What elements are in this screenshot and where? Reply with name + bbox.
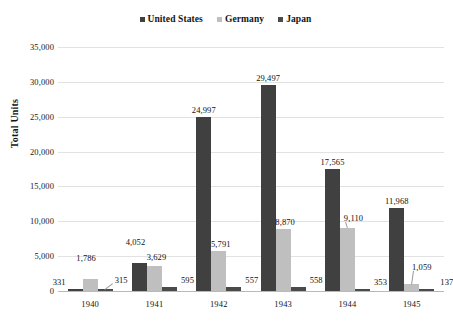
legend-label: Japan — [286, 14, 311, 24]
y-tick-label: 10,000 — [6, 216, 54, 226]
bar-germany-1944[interactable] — [340, 228, 355, 292]
legend-swatch-icon — [278, 17, 283, 22]
bar-germany-1943[interactable] — [276, 229, 291, 291]
legend-swatch-icon — [217, 17, 222, 22]
data-label-germany-1943: 8,870 — [275, 217, 295, 227]
plot-area: 3311,7863154,0523,62959524,9975,79155729… — [58, 47, 444, 291]
x-tick-label-1940: 1940 — [58, 299, 122, 309]
data-label-united-states-1940: 331 — [53, 277, 66, 287]
y-axis-ticks: 35,00030,00025,00020,00015,00010,0005,00… — [0, 47, 54, 291]
legend-item-japan[interactable]: Japan — [278, 14, 311, 24]
y-tick-label: 20,000 — [6, 147, 54, 157]
x-tick-label-1944: 1944 — [315, 299, 379, 309]
x-tick-label-1942: 1942 — [187, 299, 251, 309]
y-tick-label: 25,000 — [6, 112, 54, 122]
bar-united-states-1940[interactable] — [68, 289, 83, 291]
x-tick-label-1943: 1943 — [251, 299, 315, 309]
bar-group-bars — [187, 47, 251, 291]
bar-united-states-1943[interactable] — [261, 85, 276, 291]
data-label-germany-1941: 3,629 — [147, 252, 167, 262]
data-label-united-states-1944: 17,565 — [321, 157, 345, 167]
bar-japan-1943[interactable] — [291, 287, 306, 291]
legend-swatch-icon — [140, 17, 145, 22]
y-tick-label: 0 — [6, 286, 54, 296]
legend-item-germany[interactable]: Germany — [217, 14, 264, 24]
bar-united-states-1942[interactable] — [196, 117, 211, 291]
bar-germany-1941[interactable] — [147, 266, 162, 291]
bar-group — [187, 47, 251, 291]
bar-japan-1942[interactable] — [226, 287, 241, 291]
legend-item-united-states[interactable]: United States — [140, 14, 203, 24]
y-tick-label: 15,000 — [6, 181, 54, 191]
legend-label: Germany — [225, 14, 264, 24]
data-label-united-states-1942: 24,997 — [192, 105, 216, 115]
y-tick-label: 35,000 — [6, 42, 54, 52]
bar-united-states-1944[interactable] — [325, 169, 340, 291]
data-label-united-states-1943: 29,497 — [256, 73, 280, 83]
chart-legend: United StatesGermanyJapan — [0, 14, 451, 24]
data-label-germany-1940: 1,786 — [76, 253, 96, 263]
y-tick-label: 5,000 — [6, 251, 54, 261]
data-label-germany-1945: 1,059 — [412, 262, 432, 272]
x-tick-label-1941: 1941 — [122, 299, 186, 309]
bar-germany-1940[interactable] — [83, 279, 98, 291]
bar-germany-1942[interactable] — [211, 251, 226, 291]
axis-baseline — [58, 291, 444, 292]
bar-united-states-1941[interactable] — [132, 263, 147, 291]
data-label-germany-1942: 5,791 — [211, 239, 231, 249]
bar-group-bars — [380, 47, 444, 291]
data-label-united-states-1945: 11,968 — [385, 196, 409, 206]
bar-group — [251, 47, 315, 291]
bar-japan-1945[interactable] — [419, 289, 434, 291]
data-label-united-states-1941: 4,052 — [126, 237, 146, 247]
bar-japan-1944[interactable] — [355, 289, 370, 291]
bar-group-bars — [251, 47, 315, 291]
bar-group — [315, 47, 379, 291]
data-label-japan-1945: 137 — [440, 277, 453, 287]
bar-united-states-1945[interactable] — [389, 208, 404, 291]
bar-group-bars — [315, 47, 379, 291]
data-label-germany-1944: 9,110 — [344, 213, 363, 223]
x-tick-label-1945: 1945 — [380, 299, 444, 309]
bar-japan-1941[interactable] — [162, 287, 177, 291]
legend-label: United States — [148, 14, 203, 24]
y-tick-label: 30,000 — [6, 77, 54, 87]
bar-group — [380, 47, 444, 291]
